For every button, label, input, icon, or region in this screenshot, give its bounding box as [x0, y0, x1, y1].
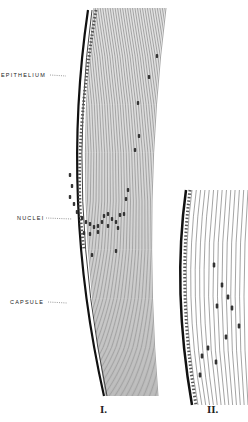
- panel-ii-fibers: [186, 190, 248, 405]
- nuclei-label: NUCLEI: [17, 215, 44, 221]
- panel-ii-label: II.: [207, 403, 218, 415]
- leader-lines: [46, 75, 72, 303]
- epithelium-label: EPITHELIUM: [1, 72, 46, 78]
- panel-i-label: I.: [100, 403, 107, 415]
- panel-ii-capsule: [180, 190, 196, 405]
- panel-i-fibers: [85, 8, 166, 396]
- lens-illustration: [0, 0, 248, 422]
- capsule-label: CAPSULE: [10, 299, 44, 305]
